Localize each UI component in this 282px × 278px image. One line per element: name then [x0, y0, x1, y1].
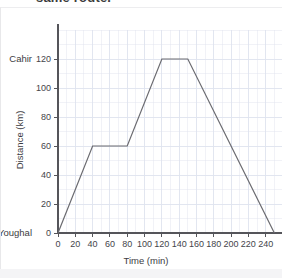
chart-ticks [54, 59, 266, 237]
x-tick-label: 220 [241, 239, 256, 249]
page-title: same route. [36, 0, 111, 5]
y-tick-label: 20 [41, 199, 51, 209]
y-tick-label: 60 [41, 141, 51, 151]
x-tick-labels: 020406080100120140160180200220240 [55, 239, 273, 249]
grid-minor [58, 30, 282, 233]
y-tick-label: 100 [36, 83, 51, 93]
x-tick-label: 120 [154, 239, 169, 249]
y-tick-labels: 020406080100120 [36, 54, 51, 238]
y-tick-label: 120 [36, 54, 51, 64]
x-tick-label: 60 [105, 239, 115, 249]
x-axis-title: Time (min) [123, 255, 168, 266]
chart-panel: 020406080100120 020406080100120140160180… [0, 7, 282, 269]
x-tick-label: 20 [70, 239, 80, 249]
y-tick-label: 80 [41, 112, 51, 122]
x-tick-label: 200 [224, 239, 239, 249]
x-tick-label: 160 [189, 239, 204, 249]
x-tick-label: 80 [122, 239, 132, 249]
x-tick-label: 100 [137, 239, 152, 249]
x-tick-label: 40 [88, 239, 98, 249]
x-tick-label: 0 [55, 239, 60, 249]
y-axis-title: Distance (km) [14, 111, 25, 170]
y-label-youghal: Youghal [1, 227, 32, 238]
x-tick-label: 240 [258, 239, 273, 249]
y-tick-label: 0 [46, 228, 51, 238]
y-label-cahir: Cahir [9, 53, 32, 64]
x-tick-label: 180 [206, 239, 221, 249]
distance-time-chart: 020406080100120 020406080100120140160180… [1, 8, 282, 270]
page-bottom-strip [0, 269, 282, 278]
y-tick-label: 40 [41, 170, 51, 180]
chart-title-strip: same route. [0, 0, 282, 7]
x-tick-label: 140 [172, 239, 187, 249]
